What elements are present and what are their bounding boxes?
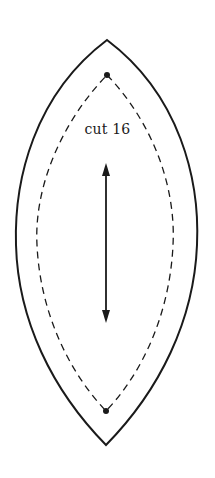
top-dot-marker	[104, 72, 110, 78]
pattern-piece-diagram	[0, 0, 215, 478]
grainline-arrow-icon	[102, 163, 110, 323]
bottom-dot-marker	[103, 408, 109, 414]
cut-instruction: cut 16	[0, 121, 215, 137]
